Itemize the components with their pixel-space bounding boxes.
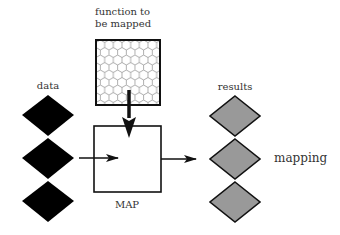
data-diamonds: [22, 95, 74, 222]
map-to-results-arrow: [161, 155, 197, 163]
data-label: data: [28, 80, 68, 92]
function-label-line2: be mapped: [95, 18, 165, 30]
map-label: MAP: [104, 199, 150, 211]
result-diamond-3: [210, 182, 260, 222]
results-label: results: [210, 81, 260, 93]
function-label-line1: function to: [95, 6, 165, 18]
mapping-label: mapping: [274, 152, 334, 164]
data-diamond-2: [22, 138, 74, 179]
map-box: [94, 126, 161, 192]
map-diagram: [0, 0, 340, 235]
function-label: function to be mapped: [95, 6, 165, 30]
result-diamond-2: [210, 139, 260, 179]
data-diamond-1: [22, 95, 74, 136]
result-diamond-1: [210, 96, 260, 136]
result-diamonds: [210, 96, 260, 222]
data-diamond-3: [22, 181, 74, 222]
